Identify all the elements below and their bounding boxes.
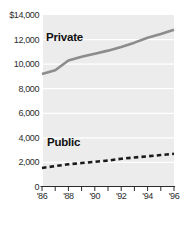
- x-axis-label: '90: [82, 191, 108, 201]
- y-axis-label: 4,000: [0, 133, 39, 143]
- x-axis-label: '94: [135, 191, 161, 201]
- y-axis-label: 2,000: [0, 157, 39, 167]
- private-series-label: Private: [46, 31, 83, 43]
- x-axis-label: '96: [161, 191, 180, 201]
- x-axis-label: '92: [108, 191, 134, 201]
- x-axis-label: '86: [29, 191, 55, 201]
- y-axis-label: 10,000: [0, 59, 39, 69]
- y-axis-label: 8,000: [0, 84, 39, 94]
- y-axis-label: $14,000: [0, 10, 39, 20]
- x-axis-label: '88: [55, 191, 81, 201]
- tuition-line-chart: $14,00012,00010,0008,0006,0004,0002,0000…: [0, 0, 180, 226]
- public-series-label: Public: [47, 136, 80, 148]
- y-axis-label: 6,000: [0, 108, 39, 118]
- y-axis-label: 12,000: [0, 35, 39, 45]
